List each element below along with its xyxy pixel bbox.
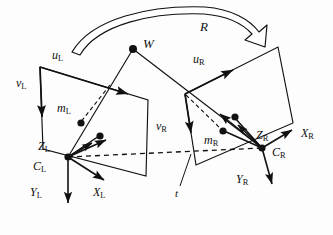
right-v-axis-label: vR bbox=[156, 120, 167, 132]
rotation-arc-arrow bbox=[72, 7, 267, 55]
right-image-point-label: mR bbox=[204, 134, 218, 146]
projection-rays bbox=[68, 49, 262, 157]
ray-left-dashed-segment bbox=[80, 85, 110, 123]
right-v-axis-arrow bbox=[185, 94, 191, 133]
world-point-dot bbox=[129, 45, 137, 53]
left-image-point-label: mL bbox=[57, 102, 71, 114]
point-markers bbox=[64, 45, 265, 161]
left-image-plane bbox=[40, 67, 148, 176]
left-u-axis-arrow bbox=[40, 67, 128, 94]
left-image-point-dot bbox=[77, 119, 84, 126]
right-image-point-dot bbox=[219, 127, 226, 134]
left-v-axis-arrow bbox=[40, 67, 42, 117]
left-center-label: CL bbox=[33, 160, 46, 172]
baseline-translation bbox=[68, 148, 262, 186]
left-u-axis-label: uL bbox=[52, 49, 63, 61]
right-center-dot bbox=[258, 144, 265, 151]
right-y-axis-label: YR bbox=[236, 173, 248, 185]
right-y-axis-arrow bbox=[262, 148, 272, 184]
right-x-axis-label: XR bbox=[301, 127, 314, 139]
left-v-axis-label: vL bbox=[16, 77, 26, 89]
rotation-label: R bbox=[200, 20, 208, 33]
world-point-label: W bbox=[143, 37, 154, 50]
translation-leader-line bbox=[180, 154, 191, 186]
translation-label: t bbox=[175, 188, 178, 199]
left-y-axis-label: YL bbox=[30, 186, 42, 198]
right-u-axis-arrow bbox=[185, 70, 233, 94]
left-secondary-point-dot bbox=[96, 132, 103, 139]
right-center-label: CR bbox=[272, 146, 286, 158]
baseline-dashed-line bbox=[68, 148, 262, 157]
ray-world-to-left-center bbox=[68, 49, 133, 157]
right-secondary-point-dot bbox=[231, 113, 238, 120]
right-u-axis-label: uR bbox=[193, 53, 205, 65]
diagram-canvas bbox=[0, 0, 333, 235]
left-x-axis-label: XL bbox=[93, 186, 105, 198]
left-z-axis-label: ZL bbox=[38, 140, 50, 152]
rotation-arc-shape bbox=[72, 7, 267, 55]
left-center-dot bbox=[64, 153, 71, 160]
stereo-geometry-figure: R W uL vL mL uR vR mR ZL CL YL XL ZR XR … bbox=[0, 0, 333, 235]
right-z-axis-label: ZR bbox=[256, 129, 268, 141]
